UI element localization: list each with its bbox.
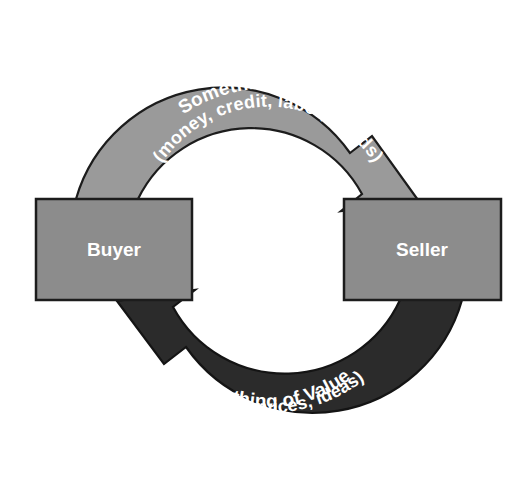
node-seller[interactable]: Seller xyxy=(344,199,501,300)
exchange-cycle-diagram: Something of Value (money, credit, labor… xyxy=(0,0,528,497)
node-buyer-label: Buyer xyxy=(87,239,141,260)
diagram-canvas: Something of Value (money, credit, labor… xyxy=(0,0,528,497)
node-seller-label: Seller xyxy=(396,239,448,260)
node-buyer[interactable]: Buyer xyxy=(36,199,192,300)
